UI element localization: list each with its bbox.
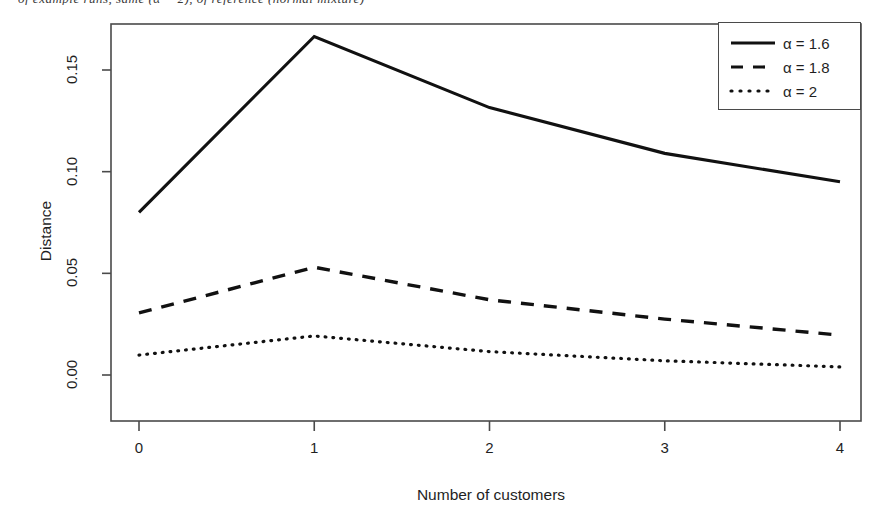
legend-item-1[interactable]: α = 1.8 [719, 55, 862, 79]
y-tick-label: 0.05 [63, 250, 80, 296]
y-tick-label: 0.00 [63, 352, 80, 398]
x-axis-tick-marks [139, 421, 840, 431]
legend-key-dashed-icon [725, 56, 783, 78]
y-tick-label: 0.15 [63, 47, 80, 93]
legend-label-0: α = 1.6 [783, 35, 830, 52]
legend: α = 1.6 α = 1.8 α = 2 [718, 22, 861, 110]
x-tick-label: 4 [825, 439, 855, 456]
legend-key-dotted-icon [725, 80, 783, 102]
legend-label-2: α = 2 [783, 83, 817, 100]
legend-label-1: α = 1.8 [783, 59, 830, 76]
x-axis-title: Number of customers [0, 486, 882, 504]
legend-item-0[interactable]: α = 1.6 [719, 31, 862, 55]
legend-item-2[interactable]: α = 2 [719, 79, 862, 103]
y-axis-title: Distance [37, 171, 55, 291]
x-tick-label: 0 [124, 439, 154, 456]
series-line-2 [139, 336, 840, 367]
figure-container: of example runs, same (α = 2), of refere… [0, 0, 882, 530]
y-tick-label: 0.10 [63, 148, 80, 194]
series-line-1 [139, 267, 840, 335]
x-tick-label: 1 [299, 439, 329, 456]
x-tick-label: 3 [650, 439, 680, 456]
x-tick-label: 2 [475, 439, 505, 456]
y-axis-tick-marks [102, 70, 111, 375]
legend-key-solid-icon [725, 32, 783, 54]
